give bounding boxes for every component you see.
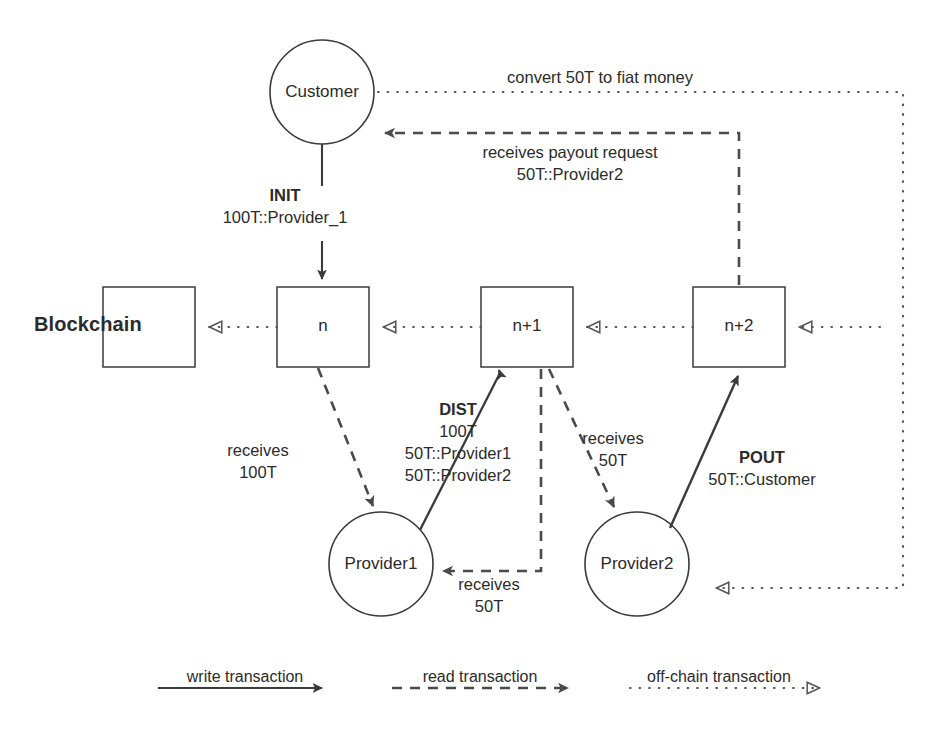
edge-label-pout-detail: 50T::Customer	[708, 470, 815, 489]
legend-item-read-label: read transaction	[423, 668, 538, 687]
edge-label-payout-request-line2: 50T::Provider2	[517, 165, 623, 184]
block-n-plus-1-label: n+1	[513, 316, 542, 336]
blockchain-title: Blockchain	[34, 313, 142, 337]
edge-dist-arrow	[499, 370, 500, 373]
edge-label-convert: convert 50T to fiat money	[507, 68, 693, 87]
edge-label-dist-detail-1: 100T	[439, 422, 477, 441]
edge-label-payout-request-line1: receives payout request	[482, 143, 657, 162]
block-n-label: n	[318, 316, 327, 336]
edge-label-receives-100t-line1: receives	[227, 441, 288, 460]
legend-item-write-label: write transaction	[187, 668, 304, 687]
edge-label-receives-50t-p1-line2: 50T	[475, 597, 503, 616]
edge-block-n-to-provider1	[318, 368, 373, 506]
diagram-vector-layer	[0, 0, 944, 748]
edge-label-receives-50t-p1-line1: receives	[458, 575, 519, 594]
edge-label-init-detail: 100T::Provider_1	[223, 208, 348, 227]
edge-label-dist-detail-2: 50T::Provider1	[405, 444, 511, 463]
edge-label-receives-50t-p2-line1: receives	[582, 429, 643, 448]
diagram-canvas: Customer Provider1 Provider2 Blockchain …	[0, 0, 944, 748]
block-n-plus-2-label: n+2	[725, 316, 754, 336]
node-customer-label: Customer	[285, 82, 359, 102]
edge-label-receives-100t-line2: 100T	[239, 463, 277, 482]
legend-item-offchain-label: off-chain transaction	[647, 668, 791, 687]
node-provider1-label: Provider1	[345, 554, 418, 574]
edge-label-init-name: INIT	[269, 186, 300, 205]
edge-label-pout-name: POUT	[739, 448, 785, 467]
edge-label-dist-name: DIST	[439, 400, 477, 419]
node-provider2-label: Provider2	[601, 554, 674, 574]
edge-pout-provider2-to-block	[670, 376, 738, 528]
edge-label-receives-50t-p2-line2: 50T	[599, 451, 627, 470]
edge-label-dist-detail-3: 50T::Provider2	[405, 466, 511, 485]
